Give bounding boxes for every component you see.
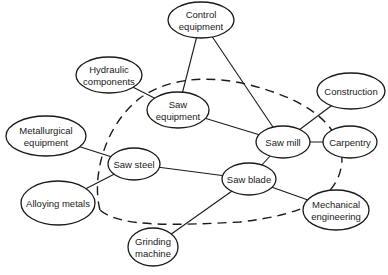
node-hydraulic: Hydrauliccomponents <box>76 57 142 93</box>
node-label: Construction <box>324 86 377 97</box>
node-label: Saw blade <box>227 174 271 185</box>
node-label: Control <box>186 9 217 20</box>
node-metallurgical: Metallurgicalequipment <box>6 116 86 156</box>
node-label: Alloying metals <box>26 198 90 209</box>
node-label: Hydraulic <box>89 64 129 75</box>
node-saw-steel: Saw steel <box>108 148 160 180</box>
node-alloying: Alloying metals <box>21 181 95 225</box>
node-saw-blade: Saw blade <box>222 163 276 195</box>
node-construction: Construction <box>317 73 385 109</box>
node-grinding: Grindingmachine <box>128 228 178 266</box>
node-label: equipment <box>179 21 224 32</box>
node-mechanical: Mechanicalengineering <box>303 190 369 230</box>
edge-control-saw_mill <box>201 20 283 142</box>
node-label: Metallurgical <box>19 125 72 136</box>
node-control: Controlequipment <box>168 2 234 38</box>
node-label: Saw <box>169 99 188 110</box>
node-label: Saw steel <box>113 159 154 170</box>
node-label: Grinding <box>135 236 171 247</box>
node-label: engineering <box>311 211 361 222</box>
node-label: equipment <box>24 137 69 148</box>
node-label: machine <box>135 248 171 259</box>
node-label: Saw mill <box>265 137 300 148</box>
node-label: Mechanical <box>312 199 360 210</box>
node-saw-equipment: Sawequipment <box>147 92 209 128</box>
node-label: Carpentry <box>329 137 371 148</box>
node-carpentry: Carpentry <box>323 126 377 158</box>
node-label: equipment <box>156 111 201 122</box>
saw-industry-network-diagram: ControlequipmentHydrauliccomponentsSaweq… <box>0 0 388 275</box>
node-label: components <box>83 76 135 87</box>
node-saw-mill: Saw mill <box>256 126 310 158</box>
